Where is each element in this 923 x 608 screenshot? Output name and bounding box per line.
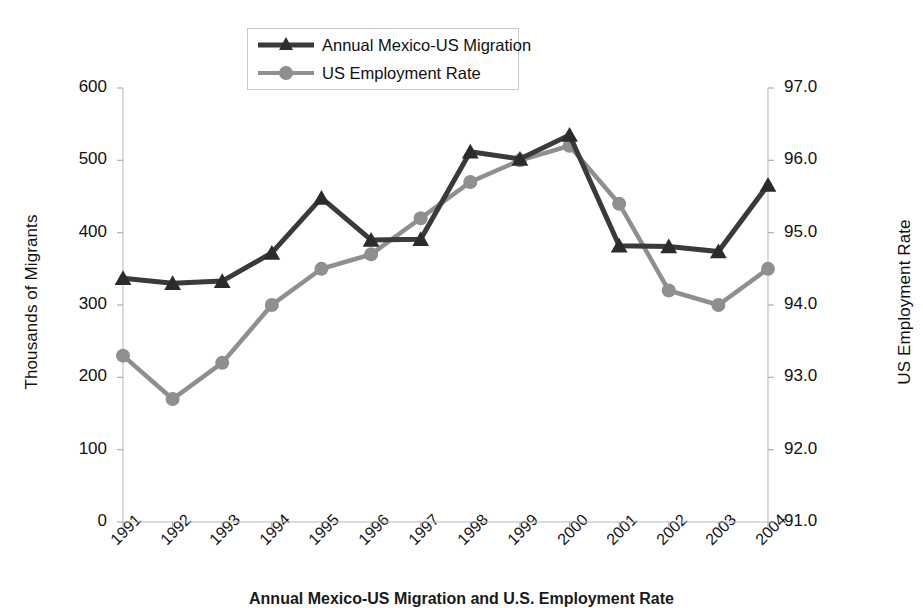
data-point-marker [612,197,626,211]
data-point-marker [414,211,428,225]
series-employment [116,139,775,406]
legend-triangle-icon [256,33,316,57]
data-point-marker [463,175,477,189]
legend-item-employment[interactable]: US Employment Rate [256,60,481,86]
data-point-marker [313,190,330,205]
data-point-marker [761,262,775,276]
series-line [123,135,768,283]
data-point-marker [265,298,279,312]
data-point-marker [561,127,578,142]
data-point-marker [314,262,328,276]
data-point-marker [711,298,725,312]
chart-legend: Annual Mexico-US Migration US Employment… [247,28,519,90]
legend-label-employment: US Employment Rate [322,64,481,83]
data-point-marker [662,284,676,298]
data-point-marker [215,356,229,370]
data-point-marker [760,177,777,192]
figure-caption: Annual Mexico-US Migration and U.S. Empl… [0,590,923,608]
legend-label-migration: Annual Mexico-US Migration [322,36,531,55]
data-point-marker [116,349,130,363]
legend-item-migration[interactable]: Annual Mexico-US Migration [256,32,531,58]
series-migration [115,127,777,290]
legend-circle-icon [256,61,316,85]
data-point-marker [364,247,378,261]
data-point-marker [166,392,180,406]
